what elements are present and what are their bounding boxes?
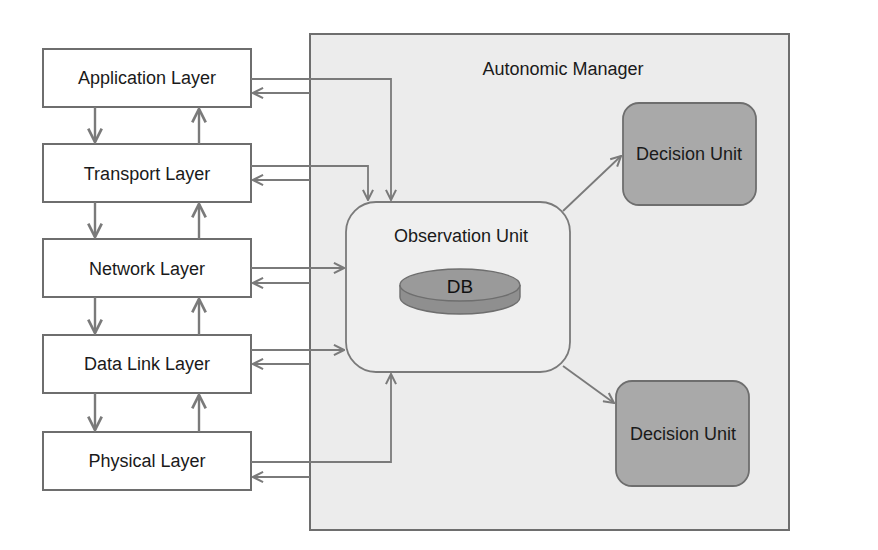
layer-application: Application Layer [43, 49, 251, 107]
observation-unit: Observation Unit DB [346, 202, 570, 372]
layer-label: Physical Layer [88, 451, 205, 471]
layer-label: Transport Layer [84, 164, 210, 184]
layer-label: Network Layer [89, 259, 205, 279]
layer-network: Network Layer [43, 239, 251, 297]
db-label: DB [447, 276, 473, 297]
decision-unit-label: Decision Unit [636, 144, 742, 164]
decision-unit-2: Decision Unit [616, 381, 749, 486]
layer-data-link: Data Link Layer [43, 335, 251, 393]
observation-unit-label: Observation Unit [394, 226, 528, 246]
diagram-canvas: Autonomic Manager Application Layer Tran… [0, 0, 878, 550]
database-icon: DB [400, 269, 520, 314]
autonomic-manager-title: Autonomic Manager [482, 59, 643, 79]
decision-unit-1: Decision Unit [623, 103, 756, 205]
decision-unit-label: Decision Unit [630, 424, 736, 444]
layer-label: Application Layer [78, 68, 216, 88]
layer-label: Data Link Layer [84, 354, 210, 374]
layer-transport: Transport Layer [43, 144, 251, 202]
layer-physical: Physical Layer [43, 432, 251, 490]
